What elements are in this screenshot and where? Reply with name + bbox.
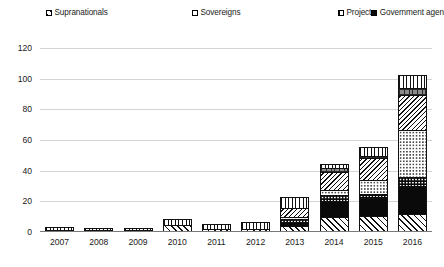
bar-segment-financials[interactable] (399, 131, 426, 178)
x-axis-line (40, 231, 432, 232)
y-axis-tick-label: 60 (22, 136, 32, 145)
legend-label: Supranationals (55, 7, 108, 18)
x-axis-tick-label: 2013 (275, 236, 314, 252)
chart-legend: SupranationalsSovereignsProjectGovernmen… (46, 7, 416, 41)
bar-segment-project[interactable] (399, 76, 426, 89)
bar-slot-2016 (393, 48, 432, 232)
bar-segment-municipal[interactable] (399, 178, 426, 187)
bar-segment-corporates[interactable] (399, 96, 426, 131)
bar-segment-supranationals[interactable] (360, 217, 387, 232)
legend-swatch-supranationals-icon (46, 10, 52, 16)
legend-item-sovereigns[interactable]: Sovereigns (192, 7, 338, 18)
bar-slot-2015 (354, 48, 393, 232)
legend-label: Sovereigns (201, 7, 241, 18)
x-axis-tick-label: 2014 (314, 236, 353, 252)
y-axis-tick-label: 20 (22, 197, 32, 206)
bar-slot-2010 (158, 48, 197, 232)
x-axis-tick-label: 2008 (79, 236, 118, 252)
bar-slot-2008 (79, 48, 118, 232)
legend-item-project[interactable]: Project (338, 7, 371, 18)
plot-area (40, 48, 432, 232)
legend-item-government-agencies[interactable]: Government agencies (371, 7, 444, 18)
x-axis-tick-label: 2012 (236, 236, 275, 252)
y-axis-tick-label: 0 (27, 228, 32, 237)
bar-slot-2009 (118, 48, 157, 232)
bar-segment-supranationals[interactable] (321, 218, 348, 232)
bar-segment-project[interactable] (360, 148, 387, 157)
y-axis-tick-label: 120 (18, 44, 32, 53)
y-axis-tick-label: 80 (22, 105, 32, 114)
legend-label: Government agencies (380, 7, 444, 18)
legend-swatch-project-icon (338, 10, 344, 16)
bar-segment-project[interactable] (281, 198, 308, 209)
bar-segment-government-agencies[interactable] (360, 199, 387, 217)
y-axis-tick-label: 40 (22, 166, 32, 175)
bar-group (40, 48, 432, 232)
bar-slot-2014 (314, 48, 353, 232)
x-axis-tick-label: 2011 (197, 236, 236, 252)
bar-slot-2012 (236, 48, 275, 232)
bar-slot-2011 (197, 48, 236, 232)
stacked-bar-2013[interactable] (280, 197, 309, 232)
bar-segment-corporates[interactable] (281, 209, 308, 218)
bar-slot-2013 (275, 48, 314, 232)
legend-item-supranationals[interactable]: Supranationals (46, 7, 192, 18)
stacked-bar-2014[interactable] (320, 164, 349, 232)
bar-segment-government-agencies[interactable] (399, 187, 426, 216)
bar-segment-abs-mbs[interactable] (399, 89, 426, 96)
x-axis-tick-label: 2007 (40, 236, 79, 252)
stacked-bar-2016[interactable] (398, 75, 427, 232)
x-axis-tick-label: 2010 (158, 236, 197, 252)
bar-segment-government-agencies[interactable] (321, 202, 348, 218)
bar-segment-financials[interactable] (360, 181, 387, 194)
x-axis-tick-label: 2016 (393, 236, 432, 252)
y-axis-tick-label: 100 (18, 74, 32, 83)
x-axis-tick-label: 2009 (118, 236, 157, 252)
legend-swatch-government-agencies-icon (371, 10, 377, 16)
legend-label: Project (347, 7, 372, 18)
bar-segment-corporates[interactable] (360, 159, 387, 181)
bar-segment-corporates[interactable] (321, 173, 348, 191)
y-axis-labels: 020406080100120 (0, 48, 36, 232)
legend-swatch-sovereigns-icon (192, 10, 198, 16)
x-axis-tick-label: 2015 (354, 236, 393, 252)
stacked-bar-2015[interactable] (359, 147, 388, 232)
bar-slot-2007 (40, 48, 79, 232)
stacked-bar-chart: SupranationalsSovereignsProjectGovernmen… (0, 0, 444, 267)
x-axis-labels: 2007200820092010201120122013201420152016 (40, 236, 432, 252)
bar-segment-supranationals[interactable] (399, 215, 426, 232)
